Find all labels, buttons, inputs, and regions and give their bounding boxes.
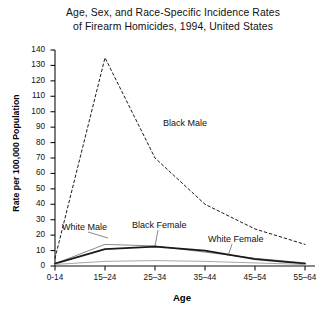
x-tick-label: 25–34 [131, 274, 179, 282]
plot-area [0, 0, 324, 316]
series-label-black-male: Black Male [163, 118, 207, 128]
y-tick-label: 110 [19, 92, 45, 100]
x-tick-label: 35–44 [181, 274, 229, 282]
y-tick-label: 80 [19, 139, 45, 147]
y-tick-label: 140 [19, 46, 45, 54]
series-label-white-female: White Female [208, 234, 264, 244]
y-tick-label: 0 [19, 262, 45, 270]
x-tick-label: 45–54 [231, 274, 279, 282]
y-tick-label: 20 [19, 231, 45, 239]
y-tick-label: 10 [19, 247, 45, 255]
y-tick-label: 30 [19, 216, 45, 224]
x-tick-label: 15–24 [81, 274, 129, 282]
axes [51, 50, 316, 271]
series-line-white-female [55, 261, 305, 265]
firearm-homicide-rate-chart: Age, Sex, and Race-Specific Incidence Ra… [0, 0, 324, 316]
series-label-black-female: Black Female [132, 220, 187, 230]
x-tick-label: 0-14 [31, 274, 79, 282]
data-series-group [55, 58, 305, 265]
y-tick-label: 70 [19, 154, 45, 162]
y-tick-label: 50 [19, 185, 45, 193]
y-tick-label: 120 [19, 77, 45, 85]
y-tick-label: 130 [19, 61, 45, 69]
y-tick-label: 90 [19, 123, 45, 131]
x-tick-label: 55–64 [281, 274, 324, 282]
y-tick-label: 40 [19, 200, 45, 208]
series-label-white-male: White Male [62, 222, 107, 232]
y-tick-label: 60 [19, 169, 45, 177]
y-tick-label: 100 [19, 108, 45, 116]
